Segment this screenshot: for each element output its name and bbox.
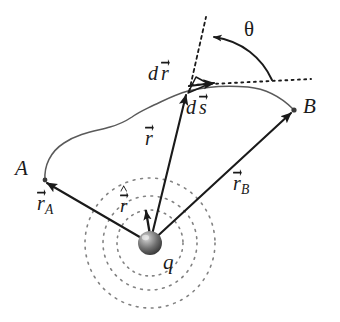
vector-arrow-accent-icon [161,57,170,65]
vector-ds-glyph-group: s [199,97,207,117]
label-ds-differential: d [186,96,196,118]
vector-r-b-glyph-group: r [233,173,241,193]
point-charge-sphere [138,231,162,255]
label-dr-differential: d [148,62,158,84]
label-point-b-text: B [303,94,316,118]
label-vector-r-b-subscript: B [241,182,249,197]
label-theta: θ [244,19,254,40]
point-a-marker [43,178,48,183]
vector-r-glyph-group: r [145,128,153,148]
point-charge-highlight [142,235,149,240]
vector-arrow-accent-icon [233,167,242,175]
vector-r-a-line [47,183,150,243]
label-vector-r-a-subscript: A [45,202,53,217]
vector-arrow-accent-icon [37,187,46,195]
label-ds: d s [186,97,207,117]
label-theta-text: θ [244,17,254,41]
label-vector-r: r [145,128,153,148]
label-point-b: B [303,96,316,117]
unit-vector-r-glyph-group: r [120,196,127,215]
theta-angle-arc [214,37,272,80]
label-dr: d r [148,63,169,83]
vector-arrow-accent-icon [120,190,128,198]
label-charge-q-text: q [163,250,174,274]
label-vector-r-a: r A [37,193,53,217]
label-vector-r-b: r B [233,173,249,197]
label-point-a: A [15,158,28,179]
label-point-a-text: A [15,156,28,180]
label-unit-vector-r-hat: r [120,196,127,215]
vector-r-b-line [150,113,291,243]
label-charge-q: q [163,252,174,273]
point-b-marker [291,107,296,112]
physics-diagram-canvas: A B q θ r [0,0,340,322]
vector-arrow-accent-icon [145,122,154,130]
vector-r-a-glyph-group: r [37,193,45,213]
vector-arrow-accent-icon [199,91,208,99]
vector-r-line [150,95,186,243]
vector-dr-glyph-group: r [161,63,169,83]
